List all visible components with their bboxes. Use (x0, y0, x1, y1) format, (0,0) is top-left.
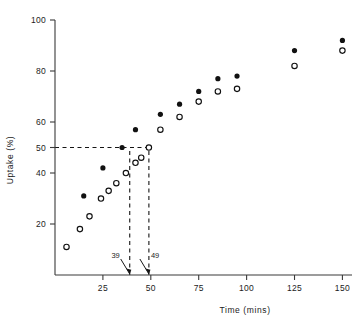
axes-group (55, 20, 352, 275)
data-point-open (133, 160, 138, 165)
data-point-open (64, 244, 69, 249)
x-tick-label-100: 100 (239, 283, 254, 293)
data-point-filled (234, 74, 239, 79)
chart-figure: 2040506080100255075100125150 3949 Time (… (0, 0, 364, 324)
data-point-filled (133, 127, 138, 132)
data-point-filled (81, 193, 86, 198)
data-point-open (340, 48, 345, 53)
data-point-filled (292, 48, 297, 53)
x-tick-label-75: 75 (194, 283, 204, 293)
data-point-open (106, 188, 111, 193)
y-tick-label-100: 100 (31, 15, 46, 25)
tick-labels-group: 2040506080100255075100125150 (31, 15, 350, 293)
x-tick-label-25: 25 (98, 283, 108, 293)
data-points-group (64, 38, 345, 250)
data-point-open (77, 226, 82, 231)
data-point-open (98, 196, 103, 201)
annotation-label-39: 39 (111, 251, 119, 260)
data-point-open (215, 89, 220, 94)
data-point-open (196, 99, 201, 104)
data-point-open (158, 127, 163, 132)
x-axis-title: Time (mins) (219, 305, 270, 315)
y-tick-label-40: 40 (36, 168, 46, 178)
y-tick-label-80: 80 (36, 66, 46, 76)
data-point-filled (177, 102, 182, 107)
data-point-filled (100, 165, 105, 170)
x-tick-label-125: 125 (287, 283, 302, 293)
data-point-open (234, 86, 239, 91)
data-point-filled (158, 112, 163, 117)
data-point-open (114, 181, 119, 186)
data-point-open (87, 214, 92, 219)
data-point-open (177, 114, 182, 119)
data-point-filled (196, 89, 201, 94)
data-point-open (139, 155, 144, 160)
data-point-filled (119, 145, 124, 150)
scatter-plot: 2040506080100255075100125150 3949 Time (… (0, 0, 364, 324)
data-point-open (292, 63, 297, 68)
data-point-filled (340, 38, 345, 43)
data-point-open (123, 170, 128, 175)
data-point-open (146, 145, 151, 150)
data-point-filled (215, 76, 220, 81)
x-tick-label-50: 50 (146, 283, 156, 293)
y-tick-label-50: 50 (36, 143, 46, 153)
y-tick-label-60: 60 (36, 117, 46, 127)
y-tick-label-20: 20 (36, 219, 46, 229)
annotations-group: 3949 (111, 251, 159, 274)
x-tick-label-150: 150 (335, 283, 350, 293)
annotation-label-49: 49 (151, 251, 159, 260)
y-axis-title: Uptake (%) (5, 136, 15, 185)
tick-marks-group (50, 20, 342, 280)
